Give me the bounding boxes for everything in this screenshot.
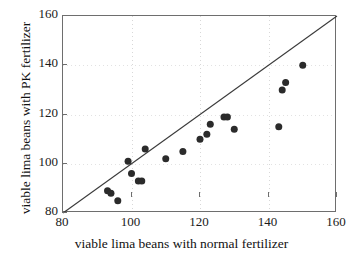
data-point: [142, 145, 149, 152]
data-point: [138, 177, 145, 184]
data-point: [207, 121, 214, 128]
x-tick-label: 100: [111, 214, 151, 230]
data-point: [275, 123, 282, 130]
data-point: [114, 197, 121, 204]
y-tick-mark: [62, 15, 67, 16]
data-point: [282, 79, 289, 86]
identity-reference-line: [63, 16, 337, 213]
data-point: [128, 170, 135, 177]
data-point: [231, 126, 238, 133]
data-point: [224, 113, 231, 120]
x-tick-mark: [131, 192, 132, 197]
data-layer: [63, 16, 337, 213]
data-point: [125, 158, 132, 165]
data-point: [279, 86, 286, 93]
plot-area: [62, 15, 336, 212]
x-tick-label: 160: [316, 214, 356, 230]
x-tick-mark: [268, 192, 269, 197]
data-points-group: [104, 62, 306, 204]
data-point: [162, 155, 169, 162]
data-point: [107, 190, 114, 197]
y-tick-mark: [62, 64, 67, 65]
x-tick-label: 120: [179, 214, 219, 230]
y-tick-mark: [62, 212, 67, 213]
data-point: [179, 148, 186, 155]
y-axis-label: viable lima beans with PK fertilizer: [18, 3, 34, 233]
x-tick-mark: [62, 192, 63, 197]
x-tick-mark: [336, 192, 337, 197]
y-tick-mark: [62, 163, 67, 164]
data-point: [299, 62, 306, 69]
x-axis-label: viable lima beans with normal fertilizer: [0, 236, 363, 252]
scatter-plot-figure: 80100120140160 80100120140160 viable lim…: [0, 0, 363, 267]
x-tick-mark: [199, 192, 200, 197]
y-tick-mark: [62, 114, 67, 115]
data-point: [197, 136, 204, 143]
x-tick-label: 140: [248, 214, 288, 230]
data-point: [203, 131, 210, 138]
